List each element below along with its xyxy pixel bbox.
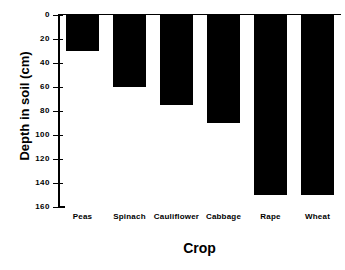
x-axis-category-label: Cauliflower: [153, 212, 200, 222]
y-axis-tick: [53, 207, 63, 208]
bar: [66, 15, 99, 51]
y-axis-tick: [53, 183, 63, 184]
y-axis-tick-label: 40: [10, 59, 50, 67]
y-axis-tick: [53, 39, 63, 40]
y-axis-tick-label: 100: [10, 131, 50, 139]
y-axis-tick: [53, 63, 63, 64]
x-axis-category-label: Wheat: [294, 212, 341, 222]
bar: [113, 15, 146, 87]
x-axis-category-label: Spinach: [106, 212, 153, 222]
bar: [254, 15, 287, 195]
y-axis-tick: [53, 135, 63, 136]
y-axis-tick-label: 60: [10, 83, 50, 91]
x-axis-title: Crop: [58, 240, 341, 256]
bar: [160, 15, 193, 105]
y-axis-tick-label: 0: [10, 11, 50, 19]
chart-figure: Depth in soil (cm) 020406080100120140160…: [0, 0, 345, 270]
top-axis-rule: [58, 14, 341, 15]
x-axis-category-label: Cabbage: [200, 212, 247, 222]
y-axis-tick: [53, 111, 63, 112]
y-axis-tick: [53, 15, 63, 16]
bar: [301, 15, 334, 195]
y-axis-tick: [53, 87, 63, 88]
y-axis-tick-label: 80: [10, 107, 50, 115]
y-axis-tick: [53, 159, 63, 160]
x-axis-category-label: Rape: [247, 212, 294, 222]
y-axis-tick-label: 120: [10, 155, 50, 163]
x-axis-category-label: Peas: [59, 212, 106, 222]
y-axis-tick-label: 140: [10, 179, 50, 187]
y-axis-tick-label: 160: [10, 203, 50, 211]
y-axis-tick-label: 20: [10, 35, 50, 43]
bar: [207, 15, 240, 123]
